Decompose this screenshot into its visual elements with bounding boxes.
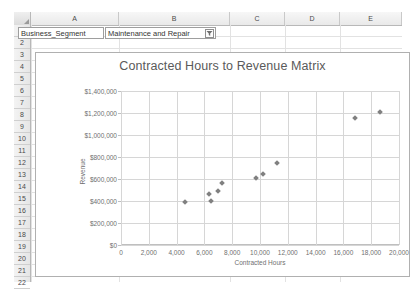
x-axis-tick-label: 18,000 (361, 249, 381, 256)
y-axis-tick-mark (118, 91, 121, 92)
cell-B2[interactable]: Maintenance and Repair (105, 27, 216, 39)
select-all-corner[interactable] (14, 12, 31, 25)
grid-line-vertical (371, 91, 372, 245)
grid-line-vertical (260, 91, 261, 245)
spreadsheet-app: ABCDE 1234567891011121314151617181920212… (0, 0, 417, 295)
row-header-16[interactable]: 16 (14, 205, 30, 217)
grid-line-vertical (121, 91, 122, 245)
grid-line-horizontal (121, 201, 399, 202)
grid-line-vertical (177, 91, 178, 245)
y-axis-tick-label: $1,200,000 (84, 110, 117, 117)
column-header-b[interactable]: B (119, 12, 230, 25)
y-axis-tick-label: $0 (110, 242, 117, 249)
column-header-row: ABCDE (14, 12, 402, 26)
y-axis-tick-mark (118, 245, 121, 246)
row-header-13[interactable]: 13 (14, 169, 30, 181)
scatter-point[interactable] (220, 180, 226, 186)
y-axis-tick-label: $400,000 (90, 198, 117, 205)
x-axis-tick-label: 16,000 (333, 249, 353, 256)
scatter-point[interactable] (206, 191, 212, 197)
x-axis-tick-label: 0 (119, 249, 123, 256)
y-axis-tick-mark (118, 179, 121, 180)
plot-area: 02,0004,0006,0008,00010,00012,00014,0001… (121, 91, 399, 245)
grid-line-horizontal (121, 135, 399, 136)
row-header-20[interactable]: 20 (14, 253, 30, 265)
grid-line-vertical (31, 25, 32, 282)
y-axis-tick-mark (118, 135, 121, 136)
scatter-point[interactable] (352, 115, 358, 121)
cell-A2[interactable]: Business_Segment (18, 27, 104, 39)
x-axis-tick-label: 14,000 (306, 249, 326, 256)
y-axis-tick-label: $1,000,000 (84, 132, 117, 139)
grid-line-vertical (232, 91, 233, 245)
chart-title: Contracted Hours to Revenue Matrix (36, 59, 409, 73)
grid-line-vertical (316, 91, 317, 245)
grid-line-horizontal (121, 113, 399, 114)
row-header-3[interactable]: 3 (14, 49, 30, 61)
x-axis-tick-label: 4,000 (168, 249, 184, 256)
y-axis-tick-mark (118, 223, 121, 224)
row-header-10[interactable]: 10 (14, 133, 30, 145)
column-header-e[interactable]: E (340, 12, 402, 25)
row-header-7[interactable]: 7 (14, 97, 30, 109)
row-header-18[interactable]: 18 (14, 229, 30, 241)
grid-line-vertical (343, 91, 344, 245)
y-axis-tick-label: $200,000 (90, 220, 117, 227)
row-header-17[interactable]: 17 (14, 217, 30, 229)
filter-funnel-icon[interactable] (205, 29, 214, 38)
row-header-15[interactable]: 15 (14, 193, 30, 205)
y-axis-tick-label: $600,000 (90, 176, 117, 183)
row-header-22[interactable]: 22 (14, 277, 30, 289)
grid-line-vertical (204, 91, 205, 245)
row-header-14[interactable]: 14 (14, 181, 30, 193)
grid-line-horizontal (121, 157, 399, 158)
row-header-21[interactable]: 21 (14, 265, 30, 277)
column-header-a[interactable]: A (31, 12, 119, 25)
column-header-d[interactable]: D (285, 12, 340, 25)
scatter-point[interactable] (253, 175, 259, 181)
scatter-point[interactable] (274, 160, 280, 166)
x-axis-tick-label: 8,000 (224, 249, 240, 256)
cell-B2-text: Maintenance and Repair (108, 29, 190, 38)
grid-line-horizontal (121, 223, 399, 224)
grid-line-horizontal (31, 48, 402, 49)
x-axis-tick-label: 2,000 (141, 249, 157, 256)
grid-line-horizontal (121, 245, 399, 246)
y-axis-tick-mark (118, 201, 121, 202)
grid-line-vertical (288, 91, 289, 245)
x-axis-title: Contracted Hours (121, 259, 399, 266)
x-axis-tick-label: 6,000 (196, 249, 212, 256)
grid-line-horizontal (121, 179, 399, 180)
row-header-4[interactable]: 4 (14, 61, 30, 73)
y-axis-tick-label: $800,000 (90, 154, 117, 161)
grid-line-vertical (149, 91, 150, 245)
row-header-12[interactable]: 12 (14, 157, 30, 169)
row-header-6[interactable]: 6 (14, 85, 30, 97)
scatter-point[interactable] (182, 199, 188, 205)
scatter-chart[interactable]: Contracted Hours to Revenue Matrix Reven… (35, 52, 410, 277)
scatter-point[interactable] (209, 198, 215, 204)
row-header-9[interactable]: 9 (14, 121, 30, 133)
grid-line-horizontal (121, 91, 399, 92)
y-axis-tick-mark (118, 113, 121, 114)
y-axis-tick-mark (118, 157, 121, 158)
x-axis-tick-label: 12,000 (278, 249, 298, 256)
x-axis-tick-label: 20,000 (389, 249, 409, 256)
column-header-c[interactable]: C (230, 12, 285, 25)
row-header-5[interactable]: 5 (14, 73, 30, 85)
row-header-19[interactable]: 19 (14, 241, 30, 253)
y-axis-tick-label: $1,400,000 (84, 88, 117, 95)
row-header-11[interactable]: 11 (14, 145, 30, 157)
row-header-8[interactable]: 8 (14, 109, 30, 121)
scatter-point[interactable] (215, 188, 221, 194)
cell-A2-text: Business_Segment (21, 29, 86, 38)
row-header-column: 12345678910111213141516171819202122 (14, 25, 31, 282)
x-axis-tick-label: 10,000 (250, 249, 270, 256)
y-axis-title: Revenue (79, 158, 86, 184)
grid-line-vertical (399, 91, 400, 245)
